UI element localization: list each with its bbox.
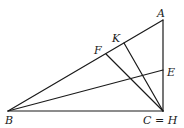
label-b: B bbox=[4, 114, 13, 127]
label-c-equals-h: C = H bbox=[143, 114, 178, 127]
segment-be bbox=[8, 70, 163, 111]
label-a: A bbox=[156, 7, 165, 20]
geometry-diagram: A K F E B C = H bbox=[0, 0, 184, 128]
label-f: F bbox=[93, 44, 102, 57]
label-k: K bbox=[111, 32, 121, 45]
label-e: E bbox=[166, 66, 175, 79]
segment-ab bbox=[8, 20, 163, 111]
segment-ck bbox=[124, 43, 163, 111]
